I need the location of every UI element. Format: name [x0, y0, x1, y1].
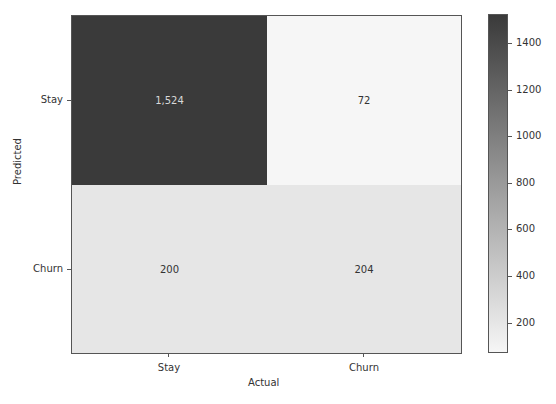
cell-value: 200: [160, 264, 179, 275]
y-tick-churn: Churn: [13, 263, 63, 274]
colorbar-tick: 400: [510, 270, 535, 281]
cell-value: 204: [354, 264, 373, 275]
colorbar-tick: 600: [510, 223, 535, 234]
x-tick-churn: Churn: [334, 362, 394, 373]
colorbar-tick: 1400: [510, 37, 541, 48]
y-axis-label: Predicted: [12, 138, 23, 185]
colorbar-tick: 800: [510, 177, 535, 188]
colorbar-tick: 1200: [510, 84, 541, 95]
colorbar-tick: 1000: [510, 130, 541, 141]
y-tick-stay: Stay: [13, 94, 63, 105]
colorbar: [488, 14, 508, 353]
cell-stay-stay: 1,524: [72, 16, 267, 185]
x-axis-label: Actual: [248, 377, 279, 388]
x-tick-stay: Stay: [139, 362, 199, 373]
cell-churn-churn: 204: [267, 185, 461, 353]
cell-value: 1,524: [155, 95, 184, 106]
cell-churn-stay: 200: [72, 185, 267, 353]
confusion-matrix-plot: 1,524 72 200 204: [71, 15, 462, 354]
cell-stay-churn: 72: [267, 16, 461, 185]
cell-value: 72: [358, 95, 371, 106]
colorbar-tick: 200: [510, 317, 535, 328]
